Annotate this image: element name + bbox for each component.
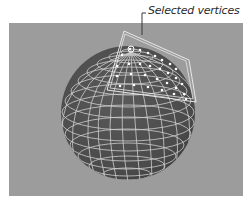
callout-leader-line — [142, 13, 146, 35]
sphere-scene[interactable] — [0, 0, 252, 202]
callout-label: Selected vertices — [148, 4, 240, 17]
polygon-sphere[interactable] — [61, 46, 197, 182]
